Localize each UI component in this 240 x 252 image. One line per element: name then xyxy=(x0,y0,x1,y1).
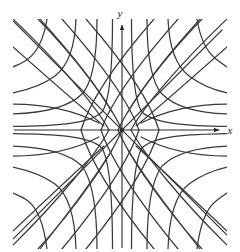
curve-x2y2-left-a xyxy=(131,19,227,245)
curve-field xyxy=(13,19,227,249)
x-axis-label: x xyxy=(227,124,233,136)
curve-x2y2-left-b xyxy=(118,19,202,249)
figure-container: x y xyxy=(0,0,240,252)
curve-x2y2-right-a xyxy=(13,19,109,245)
hyperbola-plot: x y xyxy=(0,0,240,252)
y-axis-label: y xyxy=(117,7,123,19)
curve-x2y2-right-b xyxy=(38,19,122,249)
neighbor-q3-upper xyxy=(13,146,104,231)
origin-dot xyxy=(120,128,124,132)
curve-xy-q1-c xyxy=(168,19,227,93)
neighbor-q4-upper xyxy=(136,146,227,231)
neighbor-q2-upper xyxy=(13,47,104,126)
asymptote-y-equals-minus-x xyxy=(13,21,227,235)
